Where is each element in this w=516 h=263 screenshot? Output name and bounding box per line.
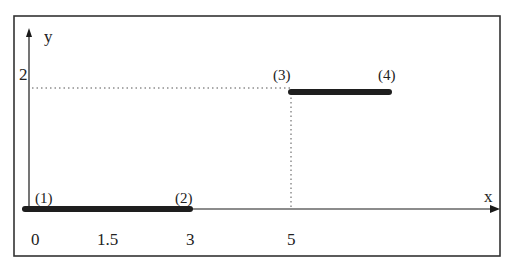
point-label-1: (1) [35,190,53,207]
y-axis-arrow-icon [26,28,32,37]
x-axis-label: x [484,187,493,206]
x-tick-3: 3 [186,230,195,249]
step-function-diagram: y x 2 (1) (2) (3) (4) 0 1.5 3 5 [0,0,516,263]
x-tick-0: 0 [31,230,40,249]
point-label-3: (3) [273,67,291,84]
y-axis-label: y [44,27,53,46]
y-axis [26,28,32,209]
x-axis-arrow-icon [490,205,500,213]
point-label-4: (4) [378,67,396,84]
x-tick-5: 5 [287,230,296,249]
x-tick-1-5: 1.5 [97,230,118,249]
y-tick-2: 2 [19,65,28,84]
diagram-frame [14,16,500,256]
point-label-2: (2) [175,190,193,207]
